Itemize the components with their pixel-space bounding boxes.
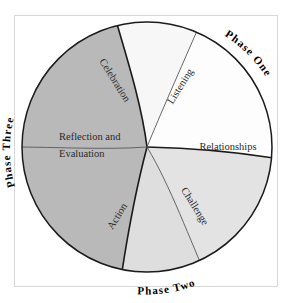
- wheel-segments: [10, 22, 285, 285]
- phase-label-three: Phase Three: [0, 115, 17, 189]
- segment-label-relationships: Relationships: [199, 141, 256, 152]
- phase-three-textpath: Phase Three: [0, 115, 17, 189]
- phase-two-textpath: Phase Two: [137, 276, 197, 297]
- diagram-root: Celebration Listening Relationships Chal…: [0, 0, 293, 303]
- phase-wheel-svg: Celebration Listening Relationships Chal…: [0, 0, 293, 303]
- segment-label-reflection-line-two: Evaluation: [59, 148, 105, 159]
- phase-label-two: Phase Two: [137, 276, 197, 297]
- segment-label-reflection-line-one: Reflection and: [59, 131, 121, 142]
